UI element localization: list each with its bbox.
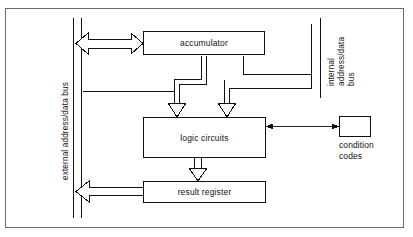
node-condition-codes[interactable]: [339, 116, 371, 137]
node-result-register[interactable]: result register: [143, 181, 266, 203]
condition-codes-label-line-1: condition: [339, 140, 374, 151]
external-bus-label: external address/data bus: [60, 60, 70, 180]
node-result-register-label: result register: [178, 187, 232, 197]
condition-codes-label-line-2: codes: [339, 151, 362, 162]
node-logic-circuits-label: logic circuits: [180, 133, 228, 143]
diagram-screenshot: accumulator logic circuits result regist…: [0, 0, 413, 237]
node-accumulator[interactable]: accumulator: [143, 31, 265, 55]
internal-bus-label-line-3: bus: [346, 24, 356, 86]
node-logic-circuits[interactable]: logic circuits: [143, 117, 266, 158]
node-accumulator-label: accumulator: [180, 38, 228, 48]
internal-bus-label-line-1: internal: [326, 24, 336, 86]
internal-bus-label-line-2: address/data: [336, 24, 346, 86]
